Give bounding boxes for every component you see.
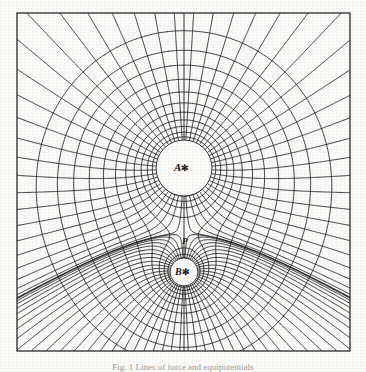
figure-caption: Fig. 1 Lines of force and equipotentials [0, 362, 366, 372]
neutral-point-label: P [182, 237, 188, 246]
source-b-charge-icon: ✻ [182, 267, 190, 277]
source-a-charge-icon: ✻ [181, 163, 189, 173]
figure-root: A✻ B✻ P Fig. 1 Lines of force and equipo… [0, 0, 366, 372]
field-map-svg [0, 0, 366, 372]
source-a-label: A✻ [174, 162, 189, 173]
source-b-letter: B [175, 266, 182, 277]
source-b-label: B✻ [175, 267, 190, 277]
